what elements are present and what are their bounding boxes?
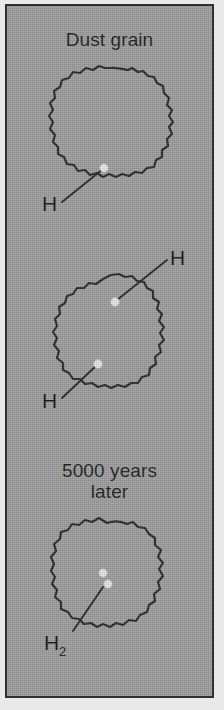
illustration-plate: Dust grain H H <box>5 4 214 698</box>
panel-h2-formed: 5000 years later H 2 <box>7 438 212 696</box>
panel-two-hydrogens: H H <box>7 238 212 438</box>
atom-label-h-1: H <box>42 192 57 215</box>
leader-line-h-2-top <box>117 260 167 300</box>
atom-label-h-2-bottom: H <box>42 389 57 412</box>
atom-label-h2-base: H <box>44 631 59 654</box>
grain-outline-1 <box>49 66 173 177</box>
atom-dot-h-1 <box>100 164 108 172</box>
atom-label-h2-subscript: 2 <box>59 644 66 659</box>
panel-3-grain-drawing: H 2 <box>7 438 212 696</box>
figure-container: Dust grain H H <box>0 0 224 710</box>
atom-dot-h2-b <box>104 580 112 588</box>
atom-dot-h-2-bottom <box>94 360 103 369</box>
atom-dot-h-2-top <box>111 298 120 307</box>
atom-dot-h2-a <box>99 569 107 577</box>
panel-dust-grain: Dust grain H <box>7 6 212 238</box>
panel-2-grain-drawing: H H <box>7 238 212 438</box>
atom-label-h-2-top: H <box>170 246 185 269</box>
grain-outline-2 <box>53 274 164 388</box>
panel-1-grain-drawing: H <box>7 6 212 238</box>
leader-line-h-1 <box>62 169 103 202</box>
leader-line-h-2-bottom <box>62 365 97 398</box>
